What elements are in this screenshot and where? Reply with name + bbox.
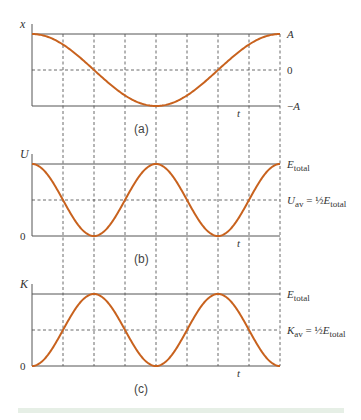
x-axis-label: t — [237, 367, 241, 379]
panel-caption: (c) — [134, 382, 148, 396]
right-level-label-top: Etotal — [286, 158, 310, 173]
right-level-label-top: Etotal — [286, 288, 310, 303]
left-level-label: 0 — [20, 360, 26, 372]
x-axis-label: t — [237, 237, 241, 249]
x-axis-label: t — [237, 107, 241, 119]
right-level-label-mid: 0 — [287, 64, 293, 76]
footer-strip — [18, 408, 344, 413]
right-level-label-bottom: −A — [287, 100, 300, 112]
right-level-label-top: A — [286, 28, 294, 40]
left-level-label: 0 — [20, 230, 26, 242]
y-axis-label: U — [20, 147, 30, 161]
y-axis-label: x — [19, 17, 26, 31]
right-level-label-mid: Kav = ½Etotal — [286, 324, 346, 339]
panel-caption: (a) — [134, 122, 149, 136]
right-level-label-mid: Uav = ½Etotal — [287, 194, 347, 209]
panel-caption: (b) — [134, 252, 149, 266]
y-axis-label: K — [19, 277, 29, 291]
shm-energy-figure: (a)xtA0−A(b)Ut0EtotalUav = ½Etotal(c)Kt0… — [0, 0, 361, 420]
